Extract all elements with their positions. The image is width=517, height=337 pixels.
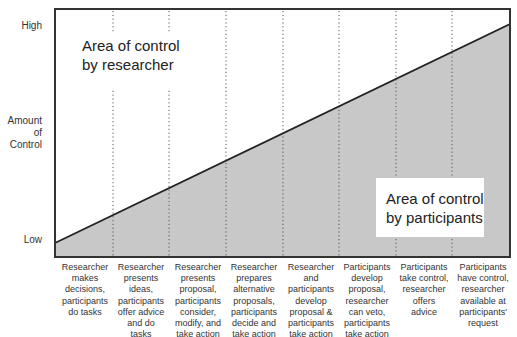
category-label-2: Researcher presents ideas, participants … <box>113 262 169 337</box>
category-label-8: Participants have control, researcher av… <box>452 262 514 329</box>
researcher-area-label: Area of control by researcher <box>78 32 202 88</box>
participants-area-line2: by participants <box>386 208 484 227</box>
category-label-1: Researcher makes decisions, participants… <box>57 262 113 318</box>
participants-area-line1: Area of control <box>386 189 484 208</box>
category-label-4: Researcher prepares alternative proposal… <box>226 262 282 337</box>
category-label-7: Participants take control, researcher of… <box>396 262 452 318</box>
researcher-area-line1: Area of control <box>82 36 198 55</box>
researcher-area-line2: by researcher <box>82 55 198 74</box>
participants-area-label: Area of control by participants <box>376 178 484 237</box>
category-label-3: Researcher presents proposal, participan… <box>170 262 226 337</box>
category-label-6: Participants develop proposal, researche… <box>339 262 395 337</box>
category-label-5: Researcher and participants develop prop… <box>283 262 339 337</box>
